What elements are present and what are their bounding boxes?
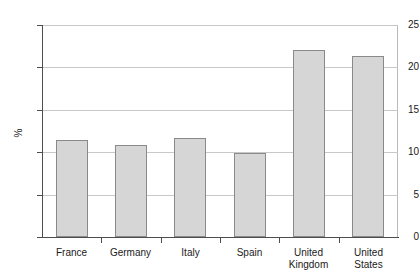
x-tick bbox=[161, 238, 162, 243]
x-tick-label: Italy bbox=[161, 247, 220, 259]
x-tick-label: France bbox=[42, 247, 101, 259]
x-tick bbox=[279, 238, 280, 243]
gridline-10 bbox=[42, 152, 398, 153]
x-tick-label: United Kingdom bbox=[279, 247, 338, 271]
plot-area-frame bbox=[42, 25, 398, 238]
y-axis-title: % bbox=[4, 123, 34, 143]
bar bbox=[352, 56, 384, 237]
y-tick-label-20: 20 bbox=[385, 62, 419, 72]
x-tick bbox=[220, 238, 221, 243]
x-tick-label: Germany bbox=[101, 247, 160, 259]
gridline-20 bbox=[42, 67, 398, 68]
gridline-5 bbox=[42, 195, 398, 196]
bar bbox=[115, 145, 147, 237]
bar bbox=[56, 140, 88, 237]
bar bbox=[293, 50, 325, 237]
x-tick bbox=[339, 238, 340, 243]
x-tick-label: United States bbox=[339, 247, 398, 271]
y-tick-label-5: 5 bbox=[385, 190, 419, 200]
x-tick bbox=[101, 238, 102, 243]
y-axis-spine bbox=[42, 25, 43, 238]
bar bbox=[174, 138, 206, 237]
bar bbox=[234, 153, 266, 237]
gridline-15 bbox=[42, 110, 398, 111]
bar-chart: % 0510152025 FranceGermanyItalySpainUnit… bbox=[0, 0, 419, 279]
y-tick-label-15: 15 bbox=[385, 105, 419, 115]
y-tick-label-25: 25 bbox=[385, 20, 419, 30]
x-tick-label: Spain bbox=[220, 247, 279, 259]
gridline-25 bbox=[42, 25, 398, 26]
y-tick-label-10: 10 bbox=[385, 147, 419, 157]
